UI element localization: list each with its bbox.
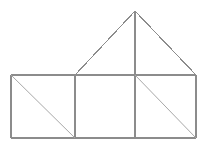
middle-square-face (75, 75, 135, 138)
geometric-figure (0, 0, 207, 149)
figure-canvas (0, 0, 207, 149)
